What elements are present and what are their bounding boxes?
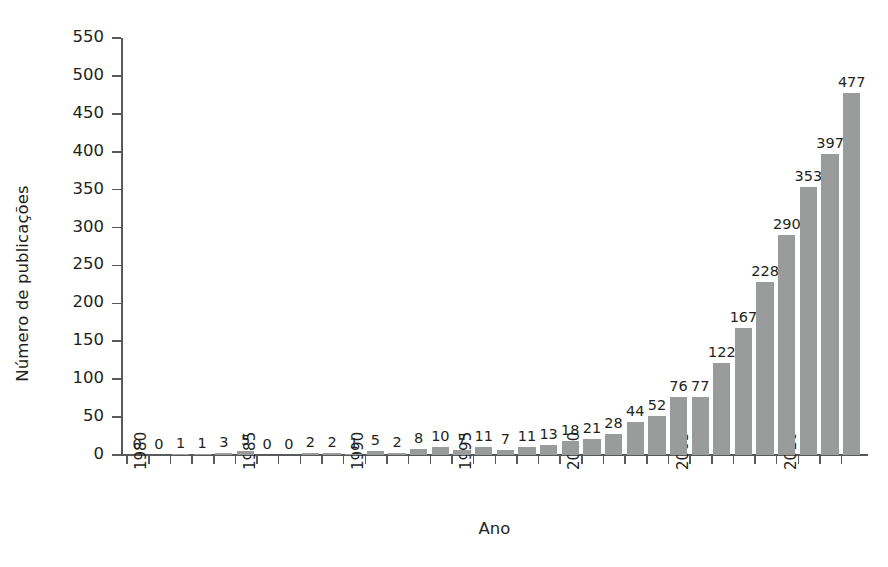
y-tick-mark [112, 416, 121, 418]
x-tick-mark [148, 455, 150, 464]
x-tick-mark [559, 455, 561, 464]
bar [367, 451, 384, 455]
y-tick-mark [112, 189, 121, 191]
x-tick-mark [213, 455, 215, 464]
bar [583, 439, 600, 455]
y-tick-label: 100 [73, 368, 105, 387]
bar [410, 449, 427, 455]
bar [172, 454, 189, 455]
bar [648, 416, 665, 455]
bar [475, 447, 492, 455]
bar [800, 187, 817, 455]
x-tick-mark [321, 455, 323, 464]
x-tick-mark [538, 455, 540, 464]
x-tick-mark [256, 455, 258, 464]
y-tick-mark [112, 37, 121, 39]
y-tick-mark [112, 340, 121, 342]
bar [692, 397, 709, 455]
bar [756, 282, 773, 455]
y-tick-label: 150 [73, 330, 105, 349]
y-tick-label: 350 [73, 179, 105, 198]
y-tick-label: 500 [73, 65, 105, 84]
bar [432, 447, 449, 455]
bar [713, 363, 730, 455]
bar [453, 450, 470, 455]
x-tick-mark [689, 455, 691, 464]
x-tick-mark [819, 455, 821, 464]
x-tick-mark [386, 455, 388, 464]
y-axis-title: Número de publicações [0, 0, 44, 567]
bar [302, 453, 319, 455]
bar [323, 453, 340, 455]
x-tick-mark [798, 455, 800, 464]
y-tick-label: 450 [73, 103, 105, 122]
x-tick-mark [191, 455, 193, 464]
bar [562, 441, 579, 455]
y-tick-label: 50 [83, 406, 104, 425]
bar [518, 447, 535, 455]
bar-value-label: 477 [830, 74, 873, 90]
bar [194, 454, 211, 455]
x-tick-mark [235, 455, 237, 464]
y-tick-label: 0 [94, 444, 105, 463]
bar [735, 328, 752, 455]
x-tick-mark [516, 455, 518, 464]
x-tick-mark [170, 455, 172, 464]
y-tick-label: 400 [73, 141, 105, 160]
bar [627, 422, 644, 455]
x-tick-mark [278, 455, 280, 464]
y-tick-label: 200 [73, 292, 105, 311]
x-tick-mark [126, 455, 128, 464]
x-tick-mark [365, 455, 367, 464]
x-tick-mark [430, 455, 432, 464]
x-tick-mark [495, 455, 497, 464]
y-tick-label: 300 [73, 217, 105, 236]
y-tick-mark [112, 454, 121, 456]
x-tick-mark [451, 455, 453, 464]
x-tick-mark [300, 455, 302, 464]
y-tick-label: 250 [73, 254, 105, 273]
bar [843, 93, 860, 455]
x-tick-mark [754, 455, 756, 464]
bar [388, 453, 405, 455]
x-tick-mark [776, 455, 778, 464]
bar [821, 154, 838, 455]
bar [605, 434, 622, 455]
x-tick-mark [581, 455, 583, 464]
bar [670, 397, 687, 455]
bar [540, 445, 557, 455]
x-tick-mark [603, 455, 605, 464]
bar [778, 235, 795, 455]
x-tick-mark [646, 455, 648, 464]
y-tick-mark [112, 265, 121, 267]
x-axis-title: Ano [121, 519, 868, 538]
y-tick-mark [112, 75, 121, 77]
y-tick-label: 550 [73, 27, 105, 46]
y-tick-mark [112, 113, 121, 115]
bar [345, 454, 362, 455]
x-tick-mark [733, 455, 735, 464]
x-tick-mark [624, 455, 626, 464]
y-tick-mark [112, 227, 121, 229]
x-tick-mark [711, 455, 713, 464]
y-axis-line [121, 38, 123, 455]
y-tick-mark [112, 151, 121, 153]
x-tick-mark [841, 455, 843, 464]
x-tick-mark [668, 455, 670, 464]
bar [497, 450, 514, 455]
x-tick-mark [343, 455, 345, 464]
x-tick-mark [473, 455, 475, 464]
x-tick-mark [408, 455, 410, 464]
y-tick-mark [112, 303, 121, 305]
y-tick-mark [112, 378, 121, 380]
bar [215, 453, 232, 455]
bar-chart-figure: Número de publicações 050100150200250300… [0, 0, 888, 567]
